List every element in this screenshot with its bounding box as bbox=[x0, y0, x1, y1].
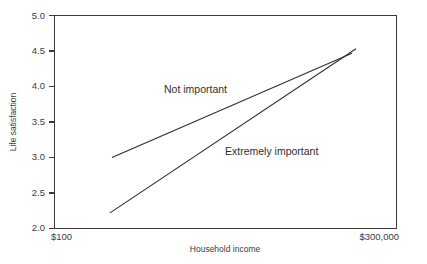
series-label-extremely-important: Extremely important bbox=[225, 145, 318, 157]
chart-canvas: 2.0 2.5 3.0 3.5 4.0 4.5 5.0 $100 $300,00… bbox=[0, 0, 427, 264]
y-tick-label-3-5: 3.5 bbox=[32, 116, 45, 127]
y-tick-label-2-5: 2.5 bbox=[32, 187, 45, 198]
x-axis-title: Household income bbox=[190, 244, 261, 254]
y-tick-label-3-0: 3.0 bbox=[32, 151, 45, 162]
series-label-not-important: Not important bbox=[164, 83, 227, 95]
y-tick-label-4-5: 4.5 bbox=[32, 45, 45, 56]
chart-figure: 2.0 2.5 3.0 3.5 4.0 4.5 5.0 $100 $300,00… bbox=[0, 0, 427, 264]
y-tick-label-4-0: 4.0 bbox=[32, 80, 45, 91]
y-tick-label-2-0: 2.0 bbox=[32, 222, 45, 233]
y-axis-title: Life satisfaction bbox=[8, 92, 18, 151]
chart-background bbox=[0, 0, 427, 264]
x-tick-label-max: $300,000 bbox=[359, 231, 399, 242]
x-tick-label-min: $100 bbox=[51, 231, 72, 242]
y-tick-label-5-0: 5.0 bbox=[32, 10, 45, 21]
